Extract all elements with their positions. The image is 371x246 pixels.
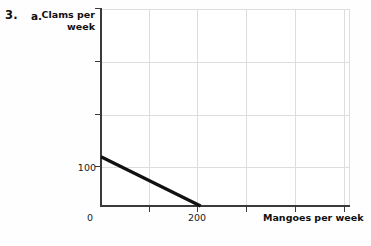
x-axis-line (100, 205, 350, 207)
gridline-vertical (246, 9, 247, 206)
y-axis-title: Clams per week (38, 9, 95, 32)
y-axis-line (100, 8, 102, 207)
plot-area (101, 9, 350, 206)
x-tick-label-0: 0 (70, 212, 110, 223)
worksheet-page: 3. a. Clams per week 100 0 200 Ma (0, 0, 371, 246)
plot-background (101, 9, 350, 206)
y-axis-title-line-2: week (38, 21, 95, 33)
y-axis-tick (95, 61, 101, 62)
gridline-vertical (295, 9, 296, 206)
plot-border-right (349, 9, 350, 206)
x-axis-tick (246, 206, 247, 212)
gridline-horizontal (101, 167, 350, 168)
gridline-horizontal (101, 115, 350, 116)
y-axis-tick (95, 114, 101, 115)
gridline-horizontal (101, 9, 350, 10)
y-axis-tick (95, 8, 101, 9)
y-axis-title-line-1: Clams per (38, 9, 95, 21)
x-tick-label-200: 200 (177, 212, 217, 223)
y-tick-label-100: 100 (56, 162, 96, 173)
gridline-vertical (344, 9, 345, 206)
gridline-vertical (197, 9, 198, 206)
gridline-vertical (149, 9, 150, 206)
gridline-horizontal (101, 62, 350, 63)
problem-number: 3. (5, 8, 18, 22)
x-axis-tick (149, 206, 150, 212)
x-axis-title: Mangoes per week (263, 212, 364, 223)
